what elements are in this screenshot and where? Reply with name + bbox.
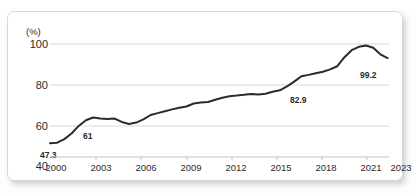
- chart-card: (%) 100 80 60 40 2000 2003 2006 2009 201…: [7, 11, 403, 181]
- gridlines: [50, 44, 389, 126]
- chart-canvas: [8, 12, 404, 182]
- chart-plot-area: (%) 100 80 60 40 2000 2003 2006 2009 201…: [8, 12, 404, 182]
- x-axis-line: [50, 157, 389, 160]
- chart-page: (%) 100 80 60 40 2000 2003 2006 2009 201…: [0, 0, 416, 195]
- chart-title-cutoff: [0, 0, 416, 9]
- data-series-line: [50, 46, 388, 144]
